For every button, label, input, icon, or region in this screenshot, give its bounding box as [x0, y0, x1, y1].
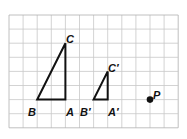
label-c: C [66, 33, 75, 45]
dilation-diagram: B A C B′ A′ C′ P [0, 0, 187, 139]
label-b: B [28, 106, 36, 118]
label-p: P [153, 89, 161, 101]
label-b-prime: B′ [80, 106, 92, 118]
label-c-prime: C′ [108, 62, 120, 74]
label-a-prime: A′ [107, 106, 120, 118]
label-a: A [65, 106, 74, 118]
